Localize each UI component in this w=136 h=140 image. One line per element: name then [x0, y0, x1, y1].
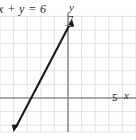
y-axis-label: y — [69, 2, 74, 13]
x-tick-label-5: 5 — [112, 92, 118, 103]
equation-text: x + y = 6 — [0, 2, 46, 16]
equation-label: x + y = 6 — [0, 3, 46, 15]
line-arrow-bottom — [12, 124, 19, 132]
x-axis-label: x — [124, 90, 129, 101]
y-tick-label-7: 7 — [68, 14, 74, 25]
plotted-line — [12, 19, 74, 132]
graph-figure: x + y = 6 y 7 5 x — [0, 0, 136, 140]
